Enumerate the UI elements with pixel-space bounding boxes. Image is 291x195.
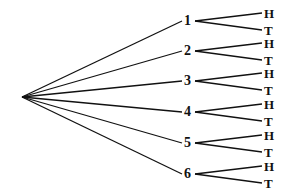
branch-line (22, 81, 182, 97)
outcome-label: T (264, 84, 273, 97)
outcome-line (195, 112, 262, 121)
outcome-label: H (264, 129, 274, 142)
outcome-label: T (264, 177, 273, 190)
outcome-label: H (264, 7, 274, 20)
branch-label: 4 (184, 105, 191, 119)
branch-label: 1 (184, 14, 191, 28)
outcome-label: T (264, 115, 273, 128)
outcome-line (195, 21, 262, 30)
branch-line (22, 21, 182, 97)
branch-label: 5 (184, 136, 191, 150)
outcome-label: H (264, 98, 274, 111)
tree-branches (0, 0, 291, 195)
branch-label: 6 (184, 167, 191, 181)
outcome-line (195, 166, 262, 174)
branch-label: 3 (184, 74, 191, 88)
tree-diagram: 1HT2HT3HT4HT5HT6HT (0, 0, 291, 195)
branch-label: 2 (184, 44, 191, 58)
outcome-line (195, 13, 262, 21)
outcome-line (195, 135, 262, 143)
outcome-label: H (264, 37, 274, 50)
outcome-line (195, 174, 262, 183)
outcome-line (195, 51, 262, 60)
outcome-line (195, 73, 262, 81)
outcome-label: H (264, 160, 274, 173)
outcome-line (195, 43, 262, 51)
outcome-line (195, 81, 262, 90)
outcome-line (195, 143, 262, 152)
outcome-line (195, 104, 262, 112)
outcome-label: T (264, 146, 273, 159)
outcome-label: H (264, 67, 274, 80)
branch-line (22, 51, 182, 97)
